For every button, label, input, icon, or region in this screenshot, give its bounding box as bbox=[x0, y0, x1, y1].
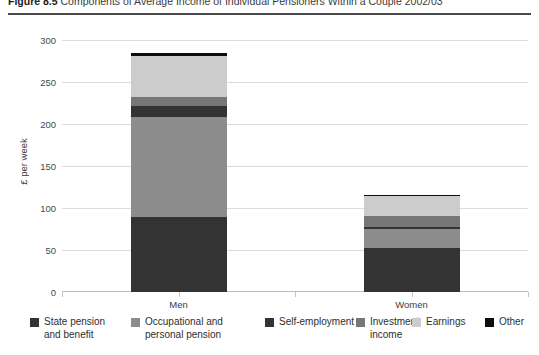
x-axis-tick-label: Men bbox=[119, 299, 239, 310]
y-axis-tick-labels: 050100150200250300 bbox=[0, 40, 56, 292]
chart-container: £ per week 050100150200250300 MenWomen bbox=[0, 18, 539, 313]
legend-label: Other bbox=[499, 316, 524, 329]
bar-women[interactable] bbox=[364, 195, 460, 292]
y-axis-tick-label: 200 bbox=[4, 119, 56, 130]
bar-segment bbox=[131, 106, 227, 118]
bar-segment bbox=[364, 248, 460, 292]
figure-number: Figure 8.5 bbox=[8, 0, 58, 7]
header-rule bbox=[8, 13, 531, 15]
x-axis-boundary-tick bbox=[62, 292, 63, 297]
y-axis-tick-label: 100 bbox=[4, 203, 56, 214]
legend-swatch-icon bbox=[30, 318, 39, 327]
y-axis-tick-label: 250 bbox=[4, 77, 56, 88]
legend-item[interactable]: Investment income bbox=[356, 316, 419, 341]
x-axis-tick bbox=[179, 292, 180, 297]
bar-segment bbox=[364, 229, 460, 248]
legend-swatch-icon bbox=[265, 318, 274, 327]
bar-segment bbox=[364, 196, 460, 216]
figure-header: Figure 8.5 Components of Average Income … bbox=[0, 0, 539, 14]
bar-segment bbox=[131, 56, 227, 97]
x-axis-labels: MenWomen bbox=[62, 292, 528, 314]
legend-label: Self-employment bbox=[279, 316, 354, 329]
y-axis-tick-label: 0 bbox=[4, 287, 56, 298]
legend-item[interactable]: Occupational and personal pension bbox=[131, 316, 223, 341]
y-axis-tick-label: 50 bbox=[4, 245, 56, 256]
plot-area bbox=[62, 40, 528, 292]
bar-men[interactable] bbox=[131, 53, 227, 292]
legend-item[interactable]: Earnings bbox=[412, 316, 465, 329]
chart-legend: State pension and benefitOccupational an… bbox=[0, 313, 539, 355]
figure-caption: Components of Average Income of Individu… bbox=[61, 0, 443, 7]
legend-swatch-icon bbox=[485, 318, 494, 327]
figure-title-line: Figure 8.5 Components of Average Income … bbox=[8, 0, 443, 7]
x-axis-boundary-tick bbox=[528, 292, 529, 297]
legend-item[interactable]: State pension and benefit bbox=[30, 316, 105, 341]
bar-segment bbox=[131, 97, 227, 105]
gridline bbox=[62, 40, 528, 41]
legend-item[interactable]: Other bbox=[485, 316, 524, 329]
x-axis-tick bbox=[412, 292, 413, 297]
bar-segment bbox=[364, 216, 460, 226]
y-axis-tick-label: 150 bbox=[4, 161, 56, 172]
legend-label: Occupational and personal pension bbox=[145, 316, 223, 341]
legend-label: State pension and benefit bbox=[44, 316, 105, 341]
legend-swatch-icon bbox=[131, 318, 140, 327]
y-axis-tick-label: 300 bbox=[4, 35, 56, 46]
x-axis-tick-label: Women bbox=[352, 299, 472, 310]
bar-segment bbox=[131, 217, 227, 292]
legend-swatch-icon bbox=[412, 318, 421, 327]
bar-segment bbox=[131, 117, 227, 217]
legend-label: Earnings bbox=[426, 316, 465, 329]
legend-item[interactable]: Self-employment bbox=[265, 316, 354, 329]
legend-swatch-icon bbox=[356, 318, 365, 327]
x-axis-boundary-tick bbox=[295, 292, 296, 297]
